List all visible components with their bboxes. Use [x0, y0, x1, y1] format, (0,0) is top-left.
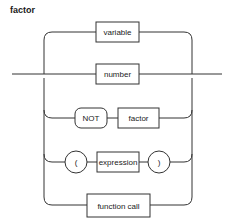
node-variable: variable	[96, 22, 139, 42]
node-expression-label: expression	[99, 158, 138, 167]
node-not-label: NOT	[83, 114, 100, 123]
node-number-label: number	[104, 70, 131, 79]
left-rail-lparen	[44, 154, 65, 162]
node-function-call-label: function call	[97, 202, 139, 211]
right-rail-variable	[139, 32, 192, 74]
right-rail-function-call	[150, 78, 192, 205]
node-lparen-label: (	[75, 158, 78, 167]
node-not: NOT	[75, 108, 107, 128]
node-factor: factor	[118, 108, 159, 128]
left-rail-not	[44, 110, 75, 118]
right-rail-rparen	[170, 154, 192, 162]
node-factor-label: factor	[128, 114, 148, 123]
node-number: number	[96, 64, 139, 84]
left-rail-function-call	[44, 78, 87, 205]
node-rparen-label: )	[158, 158, 161, 167]
node-rparen: )	[148, 151, 170, 173]
node-function-call: function call	[87, 194, 150, 217]
node-lparen: (	[65, 151, 87, 173]
left-rail-variable	[44, 32, 96, 74]
right-rail-factor	[159, 110, 192, 118]
node-expression: expression	[97, 152, 139, 172]
syntax-diagram: variable number NOT factor ( expression …	[0, 0, 228, 224]
node-variable-label: variable	[103, 28, 132, 37]
